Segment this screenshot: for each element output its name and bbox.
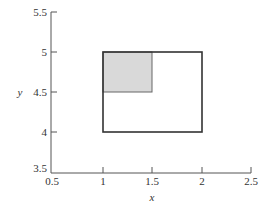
x-tick-0.5: 0.5: [45, 175, 59, 187]
x-ticks: [103, 167, 251, 173]
x-tick-labels: 0.5 1 1.5 2 2.5: [45, 175, 258, 187]
y-ticks: [51, 12, 57, 132]
x-tick-1.5: 1.5: [145, 175, 159, 187]
y-axis-label: y: [17, 86, 23, 98]
chart: 5.5 5 4.5 4 3.5 0.5 1 1.5 2 2.5 x y: [0, 0, 270, 211]
y-tick-5: 5: [42, 46, 48, 58]
y-tick-3.5: 3.5: [33, 162, 47, 174]
y-tick-4: 4: [42, 126, 48, 138]
y-tick-5.5: 5.5: [33, 6, 47, 18]
x-tick-1: 1: [100, 175, 106, 187]
y-tick-4.5: 4.5: [33, 86, 47, 98]
x-axis-label: x: [149, 191, 155, 203]
x-tick-2: 2: [199, 175, 205, 187]
y-tick-labels: 5.5 5 4.5 4 3.5: [33, 6, 47, 174]
shaded-subrectangle: [103, 52, 152, 92]
x-tick-2.5: 2.5: [244, 175, 258, 187]
